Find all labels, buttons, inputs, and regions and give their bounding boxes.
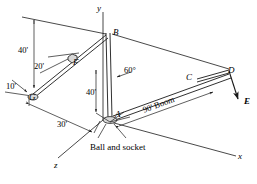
axis-label-z: z	[54, 161, 58, 170]
dimension-label-boom-offset: 40'	[86, 88, 96, 97]
point-label-g: G	[29, 93, 36, 102]
point-label-f: F	[73, 58, 79, 67]
upper-guy-line	[22, 17, 106, 34]
diagram-canvas	[0, 0, 257, 184]
angle-10-base	[5, 92, 32, 96]
stay-cable-member	[33, 35, 108, 97]
axis-label-y: y	[97, 4, 101, 13]
stay-B-to-D	[112, 34, 229, 69]
dimension-label-ground-offset: 30'	[57, 120, 67, 129]
stay-edge-lower	[35, 38, 108, 97]
point-label-a: A	[115, 110, 121, 119]
callout-leader-a	[98, 124, 106, 138]
angle-label-cable-upper: 20'	[34, 62, 44, 71]
mast-member	[106, 33, 112, 118]
point-label-c: C	[186, 73, 192, 82]
annotation-ball-and-socket: Ball and socket	[90, 143, 146, 152]
force-label-e: E	[244, 97, 250, 106]
angle-label-boom: 60°	[124, 66, 136, 75]
load-E-arrow	[229, 71, 238, 99]
statics-diagram-figure: y x z B F G A C D E 40' 40' 30' 90' Boom…	[0, 0, 257, 184]
point-label-d: D	[228, 66, 235, 75]
dimension-label-mast-height: 40'	[18, 46, 28, 55]
angle-label-cable-lower: 10'	[6, 82, 16, 91]
upper-boom-stay	[112, 34, 229, 69]
point-label-b: B	[113, 28, 119, 37]
mast-edge-right	[110, 33, 112, 118]
mast-edge-left	[106, 33, 108, 118]
axis-lines	[58, 12, 236, 158]
axis-label-x: x	[238, 152, 242, 161]
callout-ball-and-socket	[98, 124, 126, 138]
